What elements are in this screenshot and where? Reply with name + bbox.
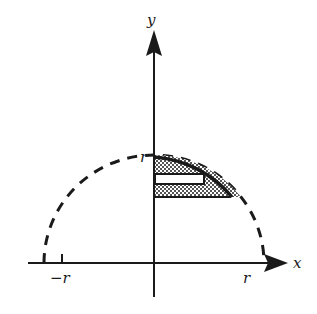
y-axis-label: y — [146, 11, 156, 29]
tick-label-y-pos: r — [140, 148, 148, 166]
diagram: x y −r r r — [0, 0, 317, 314]
slice-strip — [155, 174, 204, 184]
tick-label-x-pos: r — [243, 269, 251, 287]
x-axis-label: x — [293, 254, 302, 272]
tick-label-x-neg: −r — [50, 269, 71, 287]
